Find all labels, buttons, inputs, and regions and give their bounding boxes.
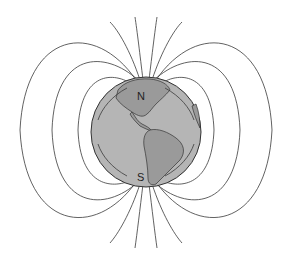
magnetic-field-diagram: N S — [0, 0, 292, 260]
earth-globe: N S — [91, 77, 201, 187]
south-pole-label: S — [137, 171, 144, 183]
north-pole-label: N — [137, 90, 145, 102]
